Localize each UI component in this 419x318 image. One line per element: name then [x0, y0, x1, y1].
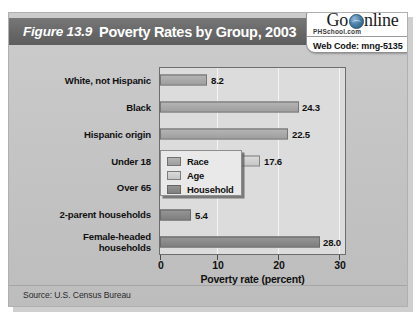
x-tick-label-10: 10: [212, 259, 224, 271]
bar-label-white-not-hispanic: White, not Hispanic: [65, 67, 151, 94]
figure-title: Poverty Rates by Group, 2003: [99, 24, 296, 40]
bar-female-headed-households[interactable]: [160, 236, 320, 247]
legend-item-race[interactable]: Race: [167, 155, 241, 168]
legend-item-household[interactable]: Household: [167, 183, 241, 196]
legend-swatch-age: [167, 171, 181, 180]
bar-label-black: Black: [126, 94, 151, 121]
bar-hispanic-origin[interactable]: [160, 129, 288, 140]
bar-black[interactable]: [160, 102, 299, 113]
x-tick-label-0: 0: [158, 259, 164, 271]
source-divider: [9, 285, 408, 286]
legend-label-household: Household: [187, 184, 234, 195]
table-row: White, not Hispanic 8.2: [9, 67, 408, 94]
table-row: Female-headed households 28.0: [9, 228, 408, 255]
bar-2-parent-households[interactable]: [160, 209, 191, 220]
bar-label-2-parent-households: 2-parent households: [60, 201, 152, 228]
legend-item-age[interactable]: Age: [167, 169, 241, 182]
x-axis-title: Poverty rate (percent): [159, 273, 346, 285]
table-row: Black 24.3: [9, 94, 408, 121]
bar-white-not-hispanic[interactable]: [160, 75, 207, 86]
x-axis-tick-labels: 0 10 20 30: [9, 259, 408, 273]
legend-swatch-household: [167, 185, 181, 194]
bar-label-female-headed-households: Female-headed households: [83, 228, 151, 255]
bar-label-under-18: Under 18: [111, 148, 151, 175]
legend-swatch-race: [167, 157, 181, 166]
chart-plot-wrapper: White, not Hispanic 8.2 Black 24.3 Hispa…: [9, 45, 408, 283]
legend-label-age: Age: [187, 170, 204, 181]
bar-value-black: 24.3: [302, 102, 320, 113]
phschool-label: PHSchool.com: [313, 28, 361, 35]
x-tick-label-30: 30: [334, 259, 346, 271]
figure-root: Figure 13.9 Poverty Rates by Group, 2003…: [0, 0, 419, 318]
x-tick-label-20: 20: [273, 259, 285, 271]
bar-value-hispanic-origin: 22.5: [292, 129, 310, 140]
figure-number: Figure 13.9: [23, 24, 92, 39]
legend-label-race: Race: [187, 156, 209, 167]
figure-frame: Figure 13.9 Poverty Rates by Group, 2003…: [8, 12, 408, 307]
bar-value-under-18: 17.6: [264, 156, 282, 167]
bar-value-female-headed-households: 28.0: [323, 236, 341, 247]
table-row: 2-parent households 5.4: [9, 201, 408, 228]
go-label: Go: [327, 12, 348, 29]
bar-label-over-65: Over 65: [117, 174, 151, 201]
table-row: Hispanic origin 22.5: [9, 121, 408, 148]
source-note: Source: U.S. Census Bureau: [23, 290, 131, 300]
bar-value-2-parent-households: 5.4: [195, 209, 208, 220]
online-label: nline: [364, 12, 399, 29]
chart-legend: Race Age Household: [160, 150, 242, 196]
bar-label-hispanic-origin: Hispanic origin: [84, 121, 151, 148]
bar-value-white-not-hispanic: 8.2: [211, 75, 224, 86]
globe-icon: [349, 14, 364, 29]
